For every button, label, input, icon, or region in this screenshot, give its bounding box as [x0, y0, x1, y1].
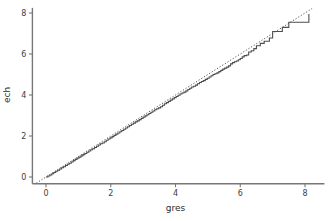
y-tick-label: 6	[21, 50, 26, 59]
y-tick-label: 8	[21, 9, 26, 18]
x-tick-label: 4	[173, 189, 178, 198]
x-tick-label: 8	[302, 189, 307, 198]
y-tick-label: 0	[21, 173, 26, 182]
y-tick-label: 4	[21, 91, 26, 100]
y-axis-title: ech	[2, 87, 12, 103]
y-tick-label: 2	[21, 132, 26, 141]
qq-plot-canvas: 02468 02468 gres ech	[0, 0, 332, 221]
x-axis-title: gres	[166, 203, 186, 213]
x-tick-label: 0	[43, 189, 48, 198]
x-tick-label: 6	[238, 189, 243, 198]
figure-background	[0, 0, 332, 221]
chart-figure: 02468 02468 gres ech	[0, 0, 332, 221]
x-tick-label: 2	[108, 189, 113, 198]
